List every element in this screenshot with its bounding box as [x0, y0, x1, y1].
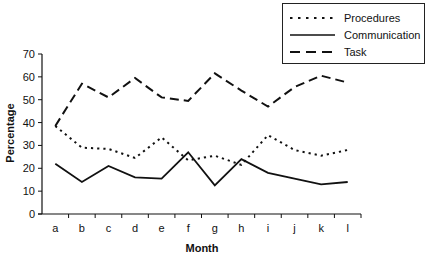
legend: ProceduresCommunicationTask [283, 4, 425, 64]
x-tick-label: b [79, 222, 85, 234]
x-tick-label: e [159, 222, 165, 234]
y-tick-label: 0 [29, 208, 35, 220]
y-tick-label: 70 [23, 48, 35, 60]
y-axis: 010203040506070 [23, 48, 42, 220]
y-tick-label: 50 [23, 94, 35, 106]
x-tick-label: h [238, 222, 244, 234]
series-line-procedures [55, 126, 347, 165]
x-tick-label: i [267, 222, 269, 234]
x-tick-label: a [52, 222, 59, 234]
legend-label-task: Task [344, 46, 367, 58]
x-tick-label: g [212, 222, 218, 234]
x-tick-label: l [346, 222, 348, 234]
x-tick-label: j [292, 222, 295, 234]
x-axis-title: Month [186, 242, 219, 254]
y-tick-label: 60 [23, 71, 35, 83]
line-chart: 010203040506070 abcdefghijkl Percentage … [0, 0, 432, 259]
plot-area [55, 73, 347, 185]
y-tick-label: 40 [23, 117, 35, 129]
y-tick-label: 20 [23, 162, 35, 174]
y-axis-title: Percentage [4, 103, 16, 162]
y-tick-label: 10 [23, 185, 35, 197]
x-tick-label: k [318, 222, 324, 234]
legend-label-procedures: Procedures [344, 12, 401, 24]
x-tick-label: f [187, 222, 191, 234]
series-line-task [55, 73, 347, 126]
y-tick-label: 30 [23, 139, 35, 151]
legend-label-communication: Communication [344, 29, 420, 41]
series-line-communication [55, 152, 347, 185]
x-axis: abcdefghijkl [38, 214, 361, 234]
x-tick-label: d [132, 222, 138, 234]
x-tick-label: c [106, 222, 112, 234]
